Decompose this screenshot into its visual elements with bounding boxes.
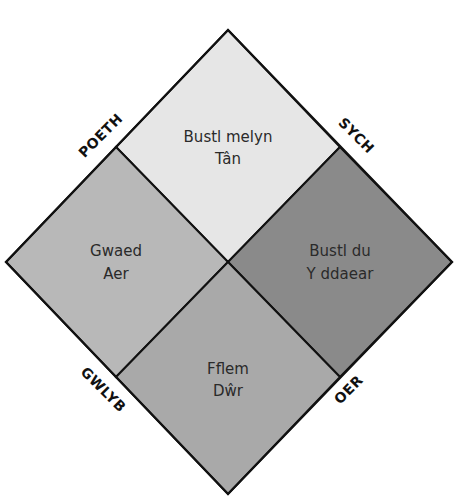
left-humour-label: Gwaed <box>90 242 142 260</box>
bottom-element-label: Dŵr <box>213 382 244 400</box>
top-element-label: Tân <box>214 150 241 168</box>
humours-diagram: Bustl melyn Tân Gwaed Aer Bustl du Y dda… <box>0 0 460 499</box>
top-humour-label: Bustl melyn <box>184 128 273 146</box>
bottom-humour-label: Fflem <box>207 360 249 378</box>
right-element-label: Y ddaear <box>306 265 375 283</box>
right-humour-label: Bustl du <box>309 242 370 260</box>
left-element-label: Aer <box>103 265 129 283</box>
